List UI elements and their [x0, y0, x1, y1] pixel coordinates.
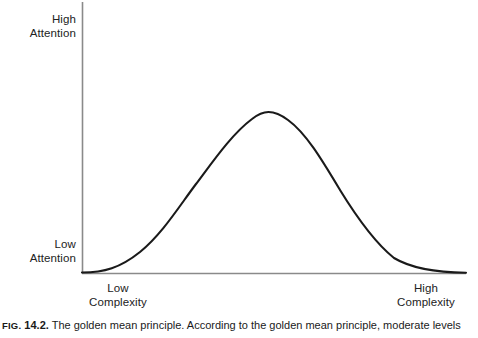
figure-caption-text: The golden mean principle. According to …: [52, 319, 461, 331]
attention-curve: [82, 112, 466, 273]
figure-number: FIG. 14.2.: [2, 319, 49, 331]
attention-complexity-plot: [0, 0, 478, 312]
x-axis-high-complexity-label: High Complexity: [378, 282, 474, 309]
x-axis-low-complexity-label: Low Complexity: [60, 282, 176, 309]
figure-golden-mean: High Attention Low Attention Low Complex…: [0, 0, 478, 312]
figure-number-value: 14.2.: [24, 319, 48, 331]
figure-caption: FIG. 14.2. The golden mean principle. Ac…: [2, 318, 476, 333]
y-axis-low-attention-label: Low Attention: [30, 238, 76, 265]
figure-number-prefix: FIG.: [2, 320, 21, 331]
y-axis-high-attention-label: High Attention: [30, 13, 76, 40]
